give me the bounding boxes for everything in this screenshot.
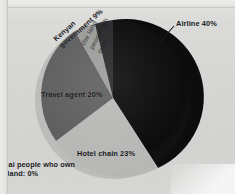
page-edge-bottom-right: [171, 164, 235, 194]
page-edge-top: [0, 0, 235, 8]
pie-label-masai: Masai people who own the land: 0%: [0, 160, 86, 179]
pie-label-airline: Airline 40%: [176, 19, 217, 28]
page-edge-left: [0, 0, 8, 194]
scanned-page: Airline 40% Kenyan government 9% Travel …: [0, 0, 235, 194]
pie-label-hotel-chain: Hotel chain 23%: [77, 149, 135, 158]
pie-label-travel-agent: Travel agent 20%: [41, 90, 103, 99]
